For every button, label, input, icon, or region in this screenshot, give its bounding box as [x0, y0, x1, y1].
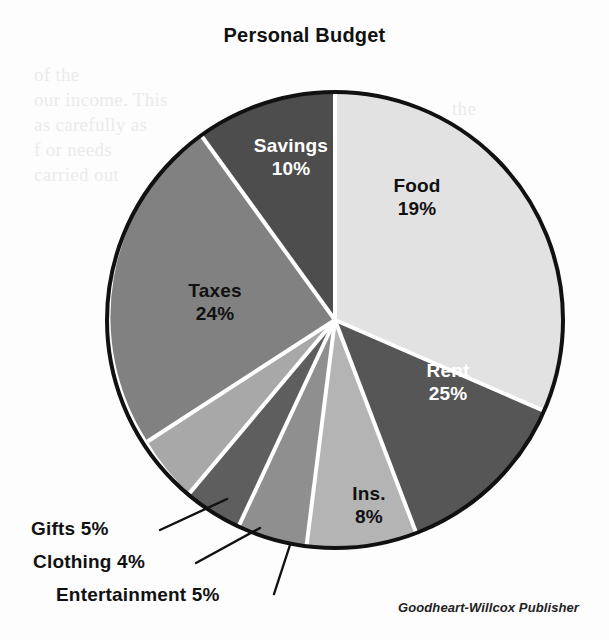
pie-callout-entertainment: Entertainment 5% [56, 584, 220, 606]
pie-label-taxes-name: Taxes [188, 280, 241, 301]
pie-label-rent-pct: 25% [403, 382, 493, 405]
pie-label-food-pct: 19% [372, 197, 462, 220]
pie-label-taxes: Taxes 24% [165, 279, 265, 325]
pie-label-rent-name: Rent [426, 360, 469, 381]
pie-callout-clothing: Clothing 4% [33, 551, 145, 573]
pie-label-savings-name: Savings [254, 135, 328, 156]
pie-label-ins-name: Ins. [352, 483, 386, 504]
pie-label-rent: Rent 25% [403, 359, 493, 405]
pie-label-savings: Savings 10% [233, 134, 349, 180]
publisher-credit: Goodheart-Willcox Publisher [398, 600, 579, 615]
leader-line-entertainment [274, 545, 290, 594]
pie-label-food: Food 19% [372, 174, 462, 220]
pie-label-food-name: Food [393, 175, 440, 196]
leader-line-clothing [196, 528, 260, 563]
pie-label-ins-pct: 8% [331, 505, 407, 528]
pie-label-ins: Ins. 8% [331, 482, 407, 528]
pie-callout-gifts: Gifts 5% [31, 518, 109, 540]
pie-label-savings-pct: 10% [233, 157, 349, 180]
page-canvas: of the our income. This as carefully as … [0, 0, 609, 640]
pie-label-taxes-pct: 24% [165, 302, 265, 325]
pie-chart [0, 0, 609, 640]
